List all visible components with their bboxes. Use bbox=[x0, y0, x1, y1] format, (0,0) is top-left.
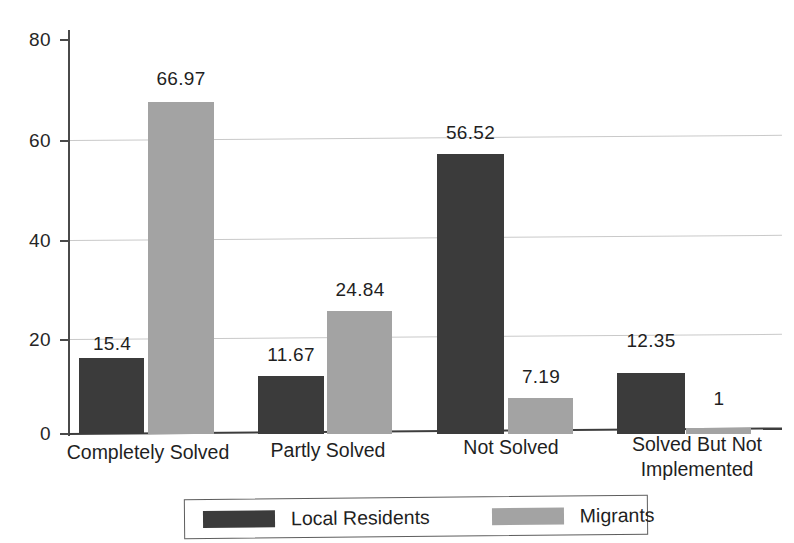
bar-migrants-not-solved[interactable] bbox=[508, 398, 573, 434]
bar-chart: 0 20 40 60 80 15.4 66.97 11.67 24.84 56.… bbox=[0, 0, 794, 543]
value-label-local-not-solved: 56.52 bbox=[429, 122, 512, 144]
value-label-local-completely-solved: 15.4 bbox=[74, 333, 150, 355]
bar-local-residents-not-solved[interactable] bbox=[437, 154, 504, 434]
value-label-migrants-not-solved: 7.19 bbox=[502, 366, 580, 388]
legend-label-local-residents: Local Residents bbox=[291, 505, 430, 529]
bar-local-residents-completely-solved[interactable] bbox=[79, 358, 144, 434]
value-label-local-solved-not-implemented: 12.35 bbox=[609, 330, 693, 352]
x-category-label-partly-solved: Partly Solved bbox=[241, 438, 415, 463]
legend-swatch-local-residents bbox=[203, 510, 275, 528]
value-label-migrants-completely-solved: 66.97 bbox=[141, 68, 221, 90]
legend-item-local-residents[interactable]: Local Residents bbox=[203, 505, 430, 530]
bar-local-residents-partly-solved[interactable] bbox=[258, 376, 324, 434]
value-label-local-partly-solved: 11.67 bbox=[250, 344, 332, 366]
bar-local-residents-solved-not-implemented[interactable] bbox=[617, 373, 685, 434]
x-category-label-not-solved: Not Solved bbox=[437, 435, 585, 460]
x-category-label-completely-solved: Completely Solved bbox=[48, 440, 248, 465]
legend-label-migrants: Migrants bbox=[580, 503, 655, 527]
value-label-migrants-partly-solved: 24.84 bbox=[319, 279, 401, 301]
bar-migrants-completely-solved[interactable] bbox=[148, 102, 214, 434]
x-category-label-solved-not-implemented: Solved But Not Implemented bbox=[609, 432, 785, 482]
legend-swatch-migrants bbox=[492, 507, 564, 525]
chart-legend: Local Residents Migrants bbox=[184, 495, 648, 539]
bars-layer bbox=[0, 0, 794, 434]
value-label-migrants-solved-not-implemented: 1 bbox=[688, 388, 750, 410]
bar-migrants-partly-solved[interactable] bbox=[327, 311, 392, 434]
legend-item-migrants[interactable]: Migrants bbox=[492, 503, 655, 528]
